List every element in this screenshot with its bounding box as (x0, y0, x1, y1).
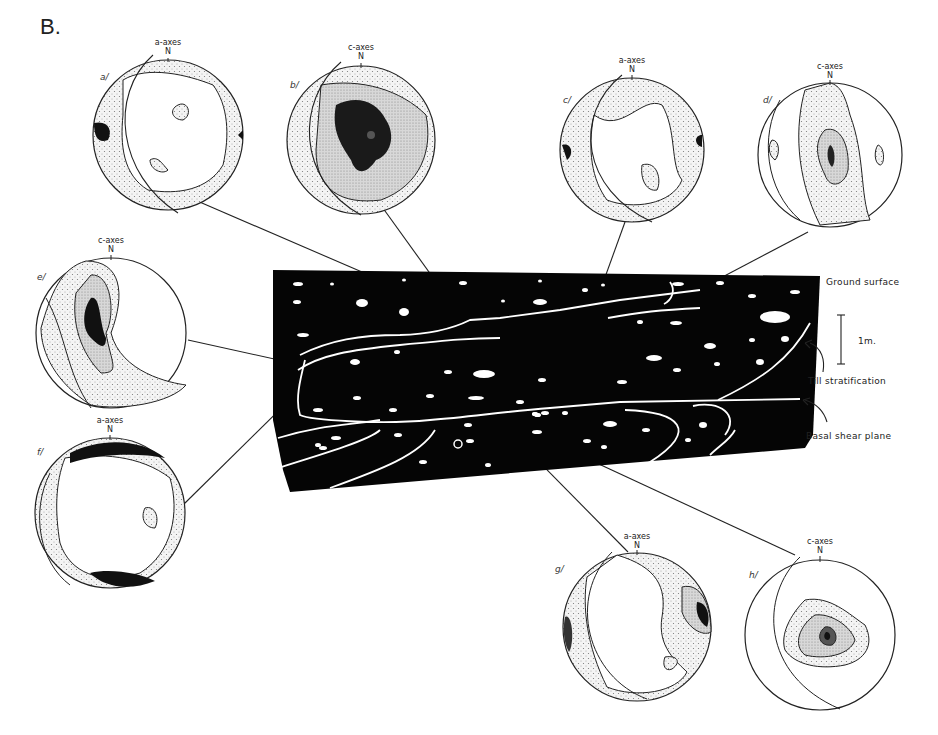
net-h-label: h/ (749, 570, 758, 580)
net-c-label: c/ (563, 95, 571, 105)
net-e-label: e/ (37, 272, 46, 282)
net-g-header: a-axesN (607, 532, 667, 550)
net-a-header: a-axesN (138, 38, 198, 56)
net-b-header: c-axesN (331, 43, 391, 61)
scale-bar-label: 1m. (858, 336, 876, 346)
till-stratification-label: Till stratification (808, 376, 886, 386)
stereonet-a (93, 55, 243, 213)
panel-label: B. (40, 14, 61, 40)
till-section (273, 270, 820, 492)
stereonet-e (36, 258, 186, 408)
net-a-label: a/ (100, 72, 109, 82)
net-b-label: b/ (290, 80, 299, 90)
net-d-label: d/ (763, 95, 772, 105)
net-d-header: c-axesN (800, 62, 860, 80)
figure-canvas (0, 0, 938, 735)
net-g-label: g/ (555, 564, 564, 574)
net-f-label: f/ (37, 447, 43, 457)
stereonet-g (563, 552, 711, 701)
ground-surface-label: Ground surface (826, 277, 899, 287)
stereonet-h (745, 557, 895, 710)
stereonet-d (758, 83, 902, 227)
net-f-header: a-axesN (80, 416, 140, 434)
stereonet-c (560, 75, 704, 222)
net-c-header: a-axesN (602, 56, 662, 74)
basal-shear-plane-label: Basal shear plane (806, 431, 891, 441)
stereonet-b (287, 62, 435, 215)
net-h-header: c-axesN (790, 537, 850, 555)
net-e-header: c-axesN (81, 236, 141, 254)
stereonet-f (35, 438, 185, 588)
